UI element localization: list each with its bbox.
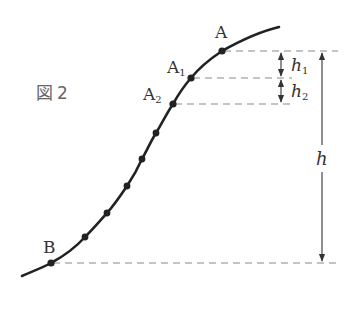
label-h1: h1 (291, 55, 308, 76)
curve (22, 27, 279, 276)
point (124, 183, 131, 190)
diagram: 図2 A A1 A2 B h1 h2 h (0, 0, 359, 313)
point (82, 234, 89, 241)
point (153, 130, 160, 137)
label-h2: h2 (291, 81, 308, 102)
label-a: A (214, 22, 228, 42)
point-a1 (187, 74, 194, 81)
label-b: B (43, 237, 56, 257)
point (139, 156, 146, 163)
point-a (218, 47, 225, 54)
label-a2: A2 (142, 84, 162, 105)
curve-points (47, 47, 225, 266)
point-a2 (169, 100, 176, 107)
figure-label: 図2 (36, 83, 68, 103)
point-b (47, 259, 54, 266)
label-a1: A1 (166, 57, 186, 78)
label-h: h (316, 148, 328, 169)
point (104, 210, 111, 217)
